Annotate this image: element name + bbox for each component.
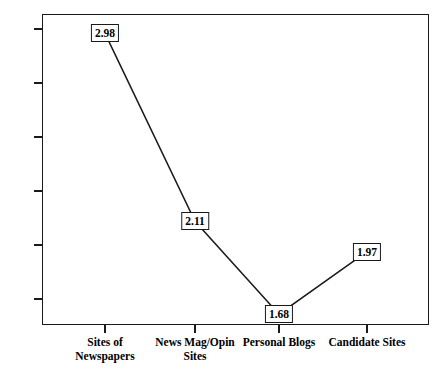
data-point-value: 1.68 (265, 305, 293, 323)
y-tick-mark (34, 298, 42, 300)
line-chart: 32.752.52.2521.75 Sites of NewspapersNew… (0, 0, 442, 371)
y-tick-mark (34, 82, 42, 84)
data-point-value: 1.97 (353, 243, 381, 261)
x-tick-mark (366, 325, 368, 333)
x-tick-mark (104, 325, 106, 333)
data-point-value: 2.98 (91, 24, 119, 42)
data-point-value: 2.11 (181, 212, 209, 230)
y-tick-mark (34, 190, 42, 192)
y-tick-mark (34, 136, 42, 138)
plot-area-frame (42, 14, 429, 325)
x-tick-mark (194, 325, 196, 333)
y-tick-mark (34, 244, 42, 246)
x-tick-label: Candidate Sites (302, 336, 432, 350)
x-tick-mark (278, 325, 280, 333)
y-tick-mark (34, 28, 42, 30)
